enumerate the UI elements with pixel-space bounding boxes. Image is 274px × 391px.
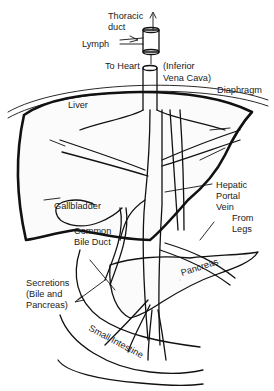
label-secretions-line3: Pancreas) [26, 300, 68, 310]
label-ivc-line1: (Inferior [163, 61, 195, 71]
label-from-legs-line2: Legs [232, 224, 252, 234]
label-ivc-line2: Vena Cava) [163, 73, 211, 83]
label-secretions-line2: (Bile and [26, 289, 62, 299]
label-gallbladder: Gallbladder [54, 201, 101, 211]
label-hepatic-portal-vein-line3: Vein [216, 202, 234, 212]
label-common-bile-duct-line1: Common [74, 226, 111, 236]
label-lymph: Lymph [82, 39, 109, 49]
label-from-legs-line1: From [232, 213, 254, 223]
label-thoracic-duct-line1: Thoracic [108, 11, 144, 21]
label-thoracic-duct-line2: duct [108, 22, 126, 32]
label-liver: Liver [68, 100, 88, 110]
label-secretions-line1: Secretions [26, 278, 70, 288]
pancreas [110, 252, 258, 318]
label-to-heart: To Heart [105, 61, 140, 71]
hepatic-portal-diagram: Thoracic duct Lymph To Heart (Inferior V… [0, 0, 274, 391]
label-hepatic-portal-vein-line2: Portal [216, 191, 240, 201]
label-diaphragm: Diaphragm [217, 85, 262, 95]
label-hepatic-portal-vein-line1: Hepatic [216, 180, 248, 190]
label-common-bile-duct-line2: Bile Duct [74, 237, 111, 247]
